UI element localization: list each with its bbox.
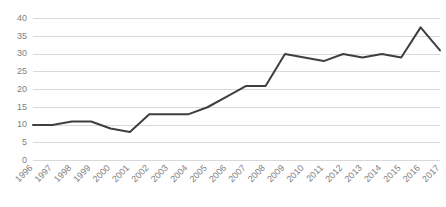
x-axis-tick-label: 2000: [91, 163, 112, 184]
x-axis-tick-label: 2017: [420, 163, 441, 184]
x-axis-tick-label: 2004: [168, 163, 189, 184]
y-axis-tick-labels: 0510152025303540: [17, 13, 27, 165]
x-axis-tick-label: 2012: [323, 163, 344, 184]
x-axis-tick-label: 1999: [71, 163, 92, 184]
data-series-line: [33, 27, 440, 132]
x-axis-tick-label: 2001: [110, 163, 131, 184]
x-axis-tick-label: 1996: [13, 163, 34, 184]
x-axis-tick-label: 2003: [149, 163, 170, 184]
x-axis-tick-label: 2007: [226, 163, 247, 184]
x-axis-tick-label: 2013: [343, 163, 364, 184]
x-axis-tick-label: 1998: [52, 163, 73, 184]
chart-plot-area: 0510152025303540 19961997199819992000200…: [0, 0, 446, 207]
x-axis-tick-label: 2014: [362, 163, 383, 184]
x-axis-tick-label: 1997: [33, 163, 54, 184]
y-axis-tick-label: 40: [17, 13, 27, 23]
y-axis-tick-label: 20: [17, 84, 27, 94]
x-axis-tick-label: 2016: [401, 163, 422, 184]
y-axis-tick-label: 30: [17, 48, 27, 58]
gridlines: [33, 19, 440, 161]
y-axis-tick-label: 35: [17, 31, 27, 41]
x-axis-tick-label: 2002: [129, 163, 150, 184]
x-axis-tick-label: 2008: [246, 163, 267, 184]
y-axis-tick-label: 25: [17, 66, 27, 76]
x-axis-tick-label: 2011: [304, 163, 325, 184]
y-axis-tick-label: 5: [22, 137, 27, 147]
x-axis-tick-labels: 1996199719981999200020012002200320042005…: [13, 163, 441, 184]
x-axis-tick-label: 2010: [285, 163, 306, 184]
x-axis-tick-label: 2015: [381, 163, 402, 184]
x-axis-tick-label: 2006: [207, 163, 228, 184]
x-axis-tick-label: 2009: [265, 163, 286, 184]
data-series-group: [33, 27, 440, 132]
x-axis-tick-label: 2005: [188, 163, 209, 184]
y-axis-tick-label: 15: [17, 102, 27, 112]
y-axis-tick-label: 10: [17, 119, 27, 129]
line-chart: 0510152025303540 19961997199819992000200…: [0, 0, 446, 207]
